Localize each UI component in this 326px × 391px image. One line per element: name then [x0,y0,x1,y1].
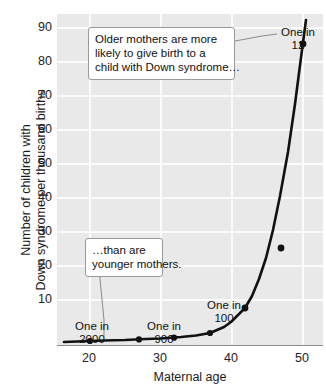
point-label-12-line1: One in [277,26,319,39]
down-syndrome-incidence-chart: 90 80 70 60 50 40 30 20 10 20 30 40 50 M… [0,0,326,391]
point-label-one-in-2000: One in 2000 [63,320,121,346]
point-label-2000-line2: 2000 [63,333,121,346]
callout-older-mothers[interactable]: Older mothers are more likely to give bi… [88,27,235,80]
point-label-100-line1: One in [198,299,250,312]
callout-upper-line2: likely to give birth to a [95,46,228,60]
callout-lower-line1: …than are [92,243,156,257]
point-label-2000-line1: One in [63,320,121,333]
point-label-one-in-900: One in 900 [138,320,190,346]
point-label-12-line2: 12 [277,39,319,52]
point-label-100-line2: 100 [198,312,250,325]
point-label-900-line1: One in [138,320,190,333]
data-point-age-45 [278,245,285,252]
point-label-one-in-100: One in 100 [198,299,250,325]
data-point-age-35 [207,330,213,336]
callout-lower-line2: younger mothers. [92,257,156,271]
leader-line-upper-callout [235,34,277,41]
callout-younger-mothers[interactable]: …than are younger mothers. [85,238,163,277]
point-label-one-in-12: One in 12 [277,26,319,52]
callout-upper-line1: Older mothers are more [95,32,228,46]
point-label-900-line2: 900 [138,333,190,346]
callout-upper-line3: child with Down syndrome… [95,60,228,74]
